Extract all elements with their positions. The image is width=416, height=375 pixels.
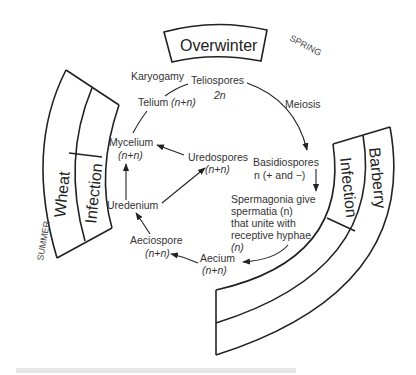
stage-basidiospores: Basidiospores n (+ and −) [253, 156, 319, 181]
uredospores-ploidy: (n+n) [205, 163, 230, 175]
wheat-rust-life-cycle-diagram: Overwinter SPRING Wheat Infection SUMMER [0, 0, 416, 375]
stage-spermagonia: Spermagonia give spermatia (n) that unit… [231, 193, 316, 253]
season-summer: SUMMER [35, 220, 52, 262]
arrow-uredenium-to-uredospores [162, 168, 205, 203]
wheat-label: Wheat [51, 170, 73, 218]
aeciospore-label: Aeciospore [130, 234, 183, 246]
mycelium-label: Mycelium [109, 136, 154, 148]
spermagonia-line3: that unite with [231, 217, 296, 229]
arrow-teliospores-to-basidiospores [247, 83, 307, 150]
uredospores-label: Uredospores [188, 151, 248, 163]
wheat-infection-label: Infection [82, 162, 105, 224]
caption-strip [16, 368, 296, 373]
teliospores-ploidy: 2n [213, 89, 226, 101]
stage-meiosis: Meiosis [285, 98, 321, 110]
arrow-aeciospore-to-uredenium [136, 213, 150, 234]
spermagonia-line4: receptive hyphae [231, 229, 311, 241]
aecium-ploidy: (n+n) [202, 264, 227, 276]
wheat-arc-band: Wheat Infection [43, 70, 119, 258]
basidiospores-label: Basidiospores [253, 156, 319, 168]
summer-label: SUMMER [35, 220, 52, 262]
stage-uredenium: Uredenium [107, 199, 159, 211]
mycelium-ploidy: (n+n) [118, 149, 143, 161]
overwinter-box: Overwinter [164, 24, 267, 62]
telium-label: Telium [138, 96, 169, 108]
barberry-label: Barberry [366, 147, 389, 210]
season-spring: SPRING [288, 33, 323, 58]
arrow-aecium-to-aeciospore [171, 254, 198, 263]
uredenium-label: Uredenium [107, 199, 159, 211]
barberry-infection-label: Infection [337, 157, 360, 219]
aecium-label: Aecium [200, 252, 235, 264]
stage-aecium: Aecium (n+n) [200, 252, 235, 276]
arrow-uredospores-to-mycelium [157, 145, 184, 155]
spermagonia-line2: spermatia (n) [231, 205, 293, 217]
stage-uredospores: Uredospores (n+n) [188, 151, 248, 175]
karyogamy-label: Karyogamy [131, 70, 185, 82]
stage-teliospores: Teliospores 2n [191, 74, 244, 101]
overwinter-label: Overwinter [180, 37, 258, 54]
spring-label: SPRING [288, 33, 323, 58]
stage-mycelium: Mycelium (n+n) [109, 136, 154, 161]
meiosis-label: Meiosis [285, 98, 321, 110]
basidiospores-ploidy: n (+ and −) [254, 169, 305, 181]
line-mycelium-to-telium [133, 111, 147, 133]
spermagonia-line1: Spermagonia give [231, 193, 316, 205]
teliospores-label: Teliospores [191, 74, 244, 86]
telium-ploidy: (n+n) [171, 96, 196, 108]
stage-telium: Telium (n+n) [138, 96, 196, 108]
aeciospore-ploidy: (n+n) [145, 247, 170, 259]
line-telium-to-teliospores [165, 84, 188, 96]
stage-karyogamy: Karyogamy [131, 70, 185, 82]
arrow-spermagonia-to-aecium [243, 245, 288, 262]
